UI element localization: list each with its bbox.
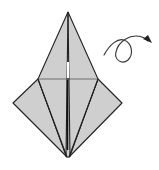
center-highlight (67, 62, 69, 78)
origami-model (13, 12, 122, 157)
turn-over-arrow-icon (104, 35, 152, 62)
